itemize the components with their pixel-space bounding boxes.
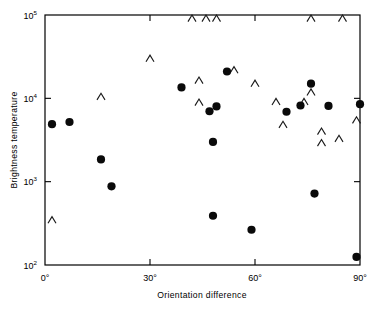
upper-limit-marker <box>353 117 361 124</box>
data-point <box>296 101 304 109</box>
data-point <box>352 253 360 261</box>
x-tick-label: 90° <box>353 273 367 283</box>
data-point <box>107 182 115 190</box>
upper-limit-marker <box>279 121 287 128</box>
upper-limit-marker <box>339 15 347 22</box>
axes-frame <box>45 15 360 265</box>
y-tick-label: 105 <box>24 9 38 21</box>
x-axis-ticks <box>150 15 255 265</box>
y-axis-label: Brightness temperature <box>9 91 19 188</box>
upper-limit-marker <box>97 93 105 100</box>
upper-limit-marker <box>146 55 154 62</box>
upper-limit-marker <box>318 128 326 135</box>
data-point <box>282 108 290 116</box>
upper-limit-marker <box>188 15 196 22</box>
upper-limit-marker <box>272 98 280 105</box>
x-axis-label: Orientation difference <box>157 290 247 300</box>
plot-canvas: 0°30°60°90° 102103104105 Orientation dif… <box>0 0 381 312</box>
series-measurements <box>48 67 364 261</box>
data-point <box>97 155 105 163</box>
x-tick-label: 60° <box>248 273 262 283</box>
upper-limit-marker <box>335 135 343 142</box>
upper-limit-marker <box>195 99 203 106</box>
data-point <box>205 107 213 115</box>
data-point <box>223 67 231 75</box>
upper-limit-marker <box>318 140 326 147</box>
x-tick-label: 30° <box>143 273 157 283</box>
upper-limit-marker <box>202 15 210 22</box>
upper-limit-marker <box>213 15 221 22</box>
y-tick-label: 103 <box>24 175 38 187</box>
data-point <box>310 189 318 197</box>
upper-limit-marker <box>48 217 56 224</box>
figure-scatter-plot: 0°30°60°90° 102103104105 Orientation dif… <box>0 0 381 312</box>
data-point <box>247 226 255 234</box>
data-point <box>48 120 56 128</box>
data-point <box>65 118 73 126</box>
y-axis-ticks <box>45 98 360 181</box>
upper-limit-marker <box>251 80 259 87</box>
upper-limit-marker <box>230 67 238 74</box>
data-point <box>356 100 364 108</box>
x-tick-label: 0° <box>41 273 50 283</box>
data-point <box>212 102 220 110</box>
upper-limit-marker <box>307 15 315 22</box>
y-axis-tick-labels: 102103104105 <box>24 9 38 271</box>
data-point <box>307 80 315 88</box>
y-tick-label: 102 <box>24 259 38 271</box>
data-point <box>324 102 332 110</box>
data-point <box>209 138 217 146</box>
data-point <box>209 212 217 220</box>
y-tick-label: 104 <box>24 92 38 104</box>
upper-limit-marker <box>307 89 315 96</box>
x-axis-tick-labels: 0°30°60°90° <box>41 273 368 283</box>
upper-limit-marker <box>195 77 203 84</box>
data-point <box>177 83 185 91</box>
